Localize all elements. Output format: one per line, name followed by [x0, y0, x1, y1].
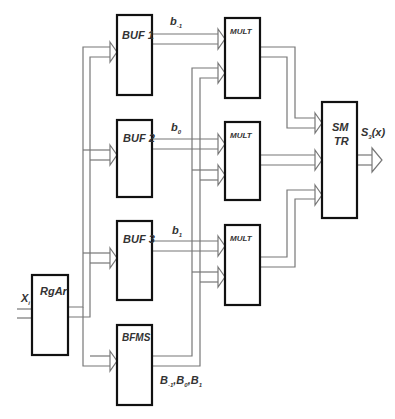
buf1-label: BUF 1 — [122, 29, 154, 41]
smtr-label-line1: SM — [332, 121, 349, 133]
mult3-label: MULT — [230, 234, 252, 243]
output-bus — [357, 148, 382, 172]
mult2-label: MULT — [230, 131, 252, 140]
buf-to-mult-buses — [152, 29, 225, 256]
smtr-label-line2: TR — [334, 135, 349, 147]
bfms-output-label: B-1,B0,B1 — [160, 374, 202, 388]
buf3-label: BUF 3 — [123, 233, 155, 245]
b-0-label: b0 — [171, 121, 181, 135]
rgar-label: RgAr — [40, 285, 67, 297]
rgar-output-bus — [68, 42, 117, 371]
buf1-block — [117, 15, 152, 95]
input-bus — [17, 309, 32, 318]
b-minus1-label: b-1 — [170, 15, 182, 29]
output-signal-label: S3(x) — [361, 126, 385, 140]
block-diagram — [0, 0, 395, 419]
mult-to-smtr-buses — [260, 47, 322, 267]
bfms-label: BFMS — [122, 332, 150, 343]
bfms-output-bus — [152, 63, 225, 366]
b-1-label: b1 — [172, 224, 182, 238]
mult1-label: MULT — [230, 27, 252, 36]
smtr-block — [322, 102, 357, 218]
input-signal-label: Xi — [21, 292, 30, 306]
buf2-label: BUF 2 — [123, 132, 155, 144]
